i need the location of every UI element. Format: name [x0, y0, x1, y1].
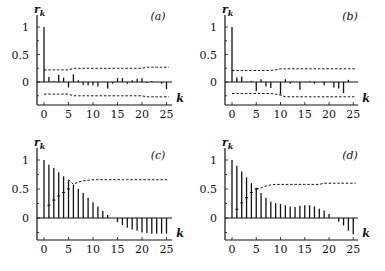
x-tick-label: 10 — [86, 243, 100, 256]
y-axis-label: rk — [34, 136, 46, 151]
acf-figure: 00.510510152025rkk(a) 00.510510152025rkk… — [0, 0, 385, 271]
x-tick-label: 15 — [111, 108, 125, 121]
acf-panel-a: 00.510510152025rkk(a) — [12, 3, 185, 121]
y-tick-label: 0.5 — [200, 49, 218, 62]
x-tick-label: 10 — [86, 108, 100, 121]
x-tick-label: 10 — [274, 243, 288, 256]
y-tick-label: 0 — [210, 76, 217, 89]
x-tick-label: 25 — [160, 243, 174, 256]
x-tick-label: 0 — [229, 243, 236, 256]
y-tick-label: 0 — [210, 212, 217, 225]
x-tick-label: 25 — [346, 243, 360, 256]
y-axis-label: rk — [34, 3, 46, 18]
x-tick-label: 5 — [65, 108, 72, 121]
y-tick-label: 0.5 — [12, 49, 30, 62]
panel-label: (a) — [150, 10, 165, 23]
x-tick-label: 15 — [298, 243, 312, 256]
x-tick-label: 0 — [229, 108, 236, 121]
panel-label: (d) — [342, 149, 358, 162]
upper-confidence-bound — [256, 183, 355, 189]
x-tick-label: 20 — [322, 108, 336, 121]
panel-label: (b) — [342, 10, 358, 23]
y-tick-label: 0 — [22, 76, 29, 89]
y-axis-label: rk — [222, 136, 234, 151]
y-tick-label: 1 — [210, 21, 217, 34]
lower-confidence-bound — [232, 94, 356, 97]
x-tick-label: 5 — [253, 243, 260, 256]
y-tick-label: 1 — [22, 21, 29, 34]
y-tick-label: 1 — [210, 154, 217, 167]
y-tick-label: 0.5 — [200, 183, 218, 196]
x-tick-label: 0 — [41, 243, 48, 256]
acf-figure-canvas: 00.510510152025rkk(a) 00.510510152025rkk… — [0, 0, 385, 271]
x-axis-label: k — [176, 227, 184, 240]
acf-panel-b: 00.510510152025rkk(b) — [200, 3, 371, 121]
x-tick-label: 20 — [135, 108, 149, 121]
x-tick-label: 20 — [322, 243, 336, 256]
x-tick-label: 15 — [298, 108, 312, 121]
x-axis-label: k — [362, 92, 370, 105]
x-tick-label: 5 — [65, 243, 72, 256]
x-tick-label: 0 — [41, 108, 48, 121]
x-tick-label: 15 — [111, 243, 125, 256]
x-tick-label: 20 — [135, 243, 149, 256]
lower-confidence-bound — [44, 94, 169, 97]
y-tick-label: 1 — [22, 154, 29, 167]
panel-label: (c) — [151, 149, 166, 162]
y-axis-label: rk — [222, 3, 234, 18]
upper-confidence-bound — [69, 180, 169, 185]
upper-confidence-bound — [232, 69, 356, 71]
x-tick-label: 25 — [160, 108, 174, 121]
x-axis-label: k — [362, 227, 370, 240]
acf-panel-d: 00.510510152025rkk(d) — [200, 136, 371, 256]
y-tick-label: 0.5 — [12, 183, 30, 196]
y-tick-label: 0 — [22, 212, 29, 225]
x-tick-label: 10 — [274, 108, 288, 121]
x-tick-label: 25 — [346, 108, 360, 121]
x-tick-label: 5 — [253, 108, 260, 121]
upper-confidence-bound — [44, 67, 169, 70]
x-axis-label: k — [176, 92, 184, 105]
acf-panel-c: 00.510510152025rkk(c) — [12, 136, 185, 256]
